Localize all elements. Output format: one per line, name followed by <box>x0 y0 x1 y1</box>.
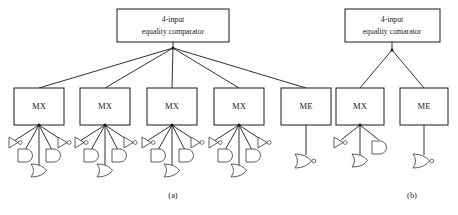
module-a-me-1-label: ME <box>300 101 313 111</box>
gate-nor <box>295 154 316 168</box>
module-a-mx-2-label: MX <box>98 101 113 111</box>
gate-and <box>179 149 194 162</box>
figure-root: 4-input equality comparator MX <box>0 0 458 215</box>
gate-inverter <box>142 137 155 148</box>
gate-or <box>97 164 113 177</box>
gate-and <box>218 149 233 162</box>
gate-and <box>46 149 61 162</box>
module-b-me-1-label: ME <box>418 101 431 111</box>
gate-and <box>246 149 261 162</box>
root-box-a-line2: equality comparator <box>142 27 205 36</box>
gate-and <box>112 149 127 162</box>
root-box-a-line1: 4-input <box>162 15 185 24</box>
gate-and <box>372 141 387 154</box>
gate-and <box>84 149 99 162</box>
module-a-mx-4-label: MX <box>232 101 247 111</box>
module-a-mx-3-label: MX <box>165 101 180 111</box>
root-box-b-line1: 4-input <box>381 15 404 24</box>
root-a-fanout-wires <box>39 42 306 88</box>
module-a-mx-2[interactable]: MX <box>75 88 137 177</box>
gate-inverter <box>9 137 22 148</box>
gate-inverter <box>209 137 222 148</box>
module-a-mx-3[interactable]: MX <box>142 88 204 177</box>
module-a-me-1[interactable]: ME <box>281 88 331 168</box>
root-box-b-line2: equality comarator <box>363 27 422 36</box>
gate-inverter <box>258 137 271 148</box>
gate-inverter <box>58 137 71 148</box>
caption-b: (b) <box>407 191 417 200</box>
gate-or <box>352 154 368 167</box>
comparator-hierarchy-diagram: 4-input equality comparator MX <box>0 0 458 215</box>
root-a-junction <box>171 46 174 49</box>
gate-or <box>231 164 247 177</box>
gate-inverter <box>124 137 137 148</box>
panel-b: 4-input equality comarator MX <box>334 9 448 200</box>
gate-inverter <box>75 137 88 148</box>
module-b-mx-1-label: MX <box>353 101 368 111</box>
module-a-mx-1-label: MX <box>32 101 47 111</box>
gate-and <box>18 149 33 162</box>
gate-nor <box>413 154 434 168</box>
module-b-mx-1[interactable]: MX <box>334 88 387 167</box>
module-a-mx-1[interactable]: MX <box>9 88 71 177</box>
root-box-b[interactable]: 4-input equality comarator <box>345 9 440 42</box>
panel-a: 4-input equality comparator MX <box>9 9 331 200</box>
gate-or <box>31 164 47 177</box>
caption-a: (a) <box>168 191 178 200</box>
gate-inverter <box>191 137 204 148</box>
gate-inverter <box>334 137 347 148</box>
module-b-me-1[interactable]: ME <box>400 88 448 168</box>
gate-or <box>164 164 180 177</box>
gate-and <box>151 149 166 162</box>
module-a-mx-4[interactable]: MX <box>209 88 271 177</box>
root-b-fanout-wires <box>360 42 424 88</box>
root-box-a[interactable]: 4-input equality comparator <box>117 9 229 42</box>
